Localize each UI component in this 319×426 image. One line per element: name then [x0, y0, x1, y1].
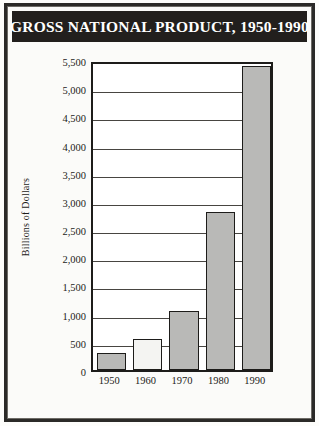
chart-title-bar: GROSS NATIONAL PRODUCT, 1950-1990 [12, 11, 307, 42]
figure-root: GROSS NATIONAL PRODUCT, 1950-1990 Billio… [0, 0, 319, 426]
chart-area: Billions of Dollars 05001,0001,5002,0002… [12, 46, 307, 412]
y-tick-label: 4,500 [40, 113, 86, 124]
y-tick-label: 4,000 [40, 141, 86, 152]
y-tick-label: 5,500 [40, 57, 86, 68]
x-tick-label: 1950 [99, 375, 120, 386]
y-tick-label: 500 [40, 338, 86, 349]
x-axis-tick-labels: 19501960197019801990 [91, 375, 273, 391]
y-tick-label: 3,000 [40, 197, 86, 208]
y-tick-label: 5,000 [40, 85, 86, 96]
page-title: GROSS NATIONAL PRODUCT, 1950-1990 [10, 18, 309, 36]
y-tick-label: 3,500 [40, 169, 86, 180]
bar [169, 311, 198, 370]
bar [97, 353, 126, 370]
bar [242, 66, 271, 370]
y-axis-title: Billions of Dollars [18, 62, 32, 372]
x-tick-label: 1980 [208, 375, 229, 386]
bar-series [93, 64, 271, 370]
bar [206, 212, 235, 370]
x-tick-label: 1970 [172, 375, 193, 386]
x-tick-label: 1990 [244, 375, 265, 386]
y-axis-tick-labels: 05001,0001,5002,0002,5003,0003,5004,0004… [34, 62, 86, 372]
y-tick-label: 2,500 [40, 226, 86, 237]
y-tick-label: 0 [40, 367, 86, 378]
x-tick-label: 1960 [135, 375, 156, 386]
plot-frame [91, 62, 273, 372]
y-tick-label: 1,500 [40, 282, 86, 293]
bar [133, 339, 162, 370]
y-tick-label: 1,000 [40, 310, 86, 321]
y-tick-label: 2,000 [40, 254, 86, 265]
